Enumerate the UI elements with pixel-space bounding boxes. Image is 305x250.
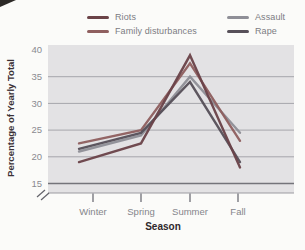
legend-item-riots: Riots (87, 12, 136, 22)
y-tick-label-40: 40 (31, 44, 42, 55)
x-category-label-summer: Summer (172, 206, 208, 217)
plot-area (48, 45, 294, 193)
x-category-label-fall: Fall (230, 206, 245, 217)
y-tick-label-25: 25 (31, 124, 42, 135)
y-tick-label-15: 15 (31, 178, 42, 189)
legend-label-riots: Riots (115, 12, 136, 22)
axis-break-mark (37, 190, 45, 197)
y-tick-label-35: 35 (31, 71, 42, 82)
x-axis-title: Season (145, 221, 181, 232)
legend-swatch-rape (227, 30, 249, 33)
x-category-label-spring: Spring (127, 206, 154, 217)
legend-item-rape: Rape (227, 26, 277, 36)
figure: 403530252015WinterSpringSummerFallSeason… (0, 0, 305, 250)
legend-label-assault: Assault (255, 12, 285, 22)
legend-label-rape: Rape (255, 26, 277, 36)
axis-break-mark (41, 193, 49, 200)
y-tick-label-20: 20 (31, 151, 42, 162)
x-category-label-winter: Winter (79, 206, 106, 217)
y-tick-label-30: 30 (31, 98, 42, 109)
legend-swatch-assault (227, 16, 249, 19)
legend-item-assault: Assault (227, 12, 285, 22)
legend-label-family-disturbances: Family disturbances (115, 26, 197, 36)
legend-swatch-riots (87, 16, 109, 19)
chart-legend: Riots Family disturbances Assault Rape (0, 0, 305, 40)
legend-item-family-disturbances: Family disturbances (87, 26, 197, 36)
y-axis-title: Percentage of Yearly Total (5, 59, 16, 177)
legend-swatch-family-disturbances (87, 30, 109, 33)
